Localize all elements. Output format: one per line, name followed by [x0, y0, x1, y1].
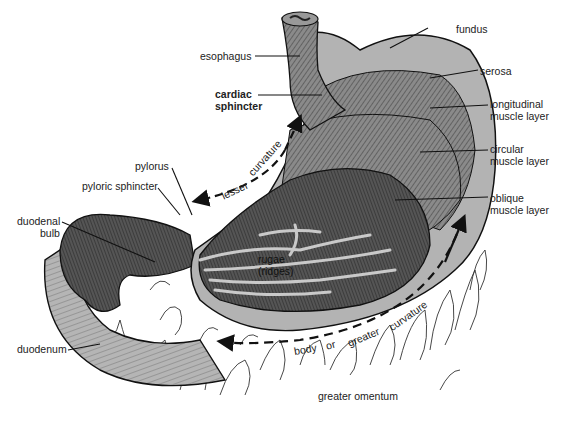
- label-pylorus: pylorus: [135, 160, 169, 172]
- duodenal-bulb-shape: [60, 214, 195, 311]
- label-circular-line1: circular: [490, 143, 524, 155]
- label-rugae-line2: (ridges): [258, 265, 294, 277]
- label-serosa: serosa: [480, 65, 512, 77]
- label-rugae-line1: rugae: [258, 253, 285, 265]
- label-duodenal-bulb-line2: bulb: [40, 227, 60, 239]
- label-longitudinal-line2: muscle layer: [490, 110, 549, 122]
- stomach-diagram: fundus esophagus serosa cardiac sphincte…: [0, 0, 564, 430]
- label-circular-line2: muscle layer: [490, 155, 549, 167]
- label-cardiac-sphincter-line2: sphincter: [215, 100, 262, 112]
- label-fundus: fundus: [456, 23, 488, 35]
- label-pyloric-sphincter: pyloric sphincter: [82, 180, 158, 192]
- label-oblique-line2: muscle layer: [490, 204, 549, 216]
- label-duodenal-bulb-line1: duodenal: [17, 215, 60, 227]
- label-oblique-line1: oblique: [490, 192, 524, 204]
- label-greater-omentum: greater omentum: [318, 390, 398, 402]
- label-cardiac-sphincter-line1: cardiac: [215, 88, 252, 100]
- label-esophagus: esophagus: [200, 50, 251, 62]
- label-longitudinal-line1: longitudinal: [490, 98, 543, 110]
- label-duodenum: duodenum: [17, 343, 67, 355]
